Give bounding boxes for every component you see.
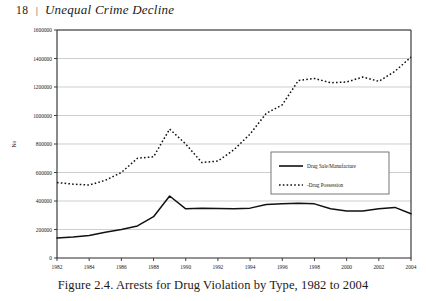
y-tick-label: 600000 <box>36 170 52 176</box>
x-tick-label: 1986 <box>116 264 127 270</box>
x-tick-label: 2004 <box>406 264 417 270</box>
y-axis-ticks: 0200000400000600000800000100000012000001… <box>33 27 57 261</box>
x-tick-label: 1998 <box>309 264 320 270</box>
x-tick-label: 1992 <box>213 264 224 270</box>
y-tick-label: 0 <box>49 255 52 261</box>
y-tick-label: 1400000 <box>33 56 52 62</box>
x-tick-label: 2000 <box>341 264 352 270</box>
x-axis-ticks: 1982198419861988199019921994199619982000… <box>52 258 417 270</box>
x-tick-label: 1984 <box>84 264 95 270</box>
book-page: 18 | Unequal Crime Decline 0200000400000… <box>0 0 426 301</box>
data-series-group <box>57 57 411 238</box>
x-tick-label: 1990 <box>180 264 191 270</box>
figure-caption: Figure 2.4. Arrests for Drug Violation b… <box>0 278 426 293</box>
x-tick-label: 1996 <box>277 264 288 270</box>
gridlines <box>57 30 411 230</box>
figure-2-4: 0200000400000600000800000100000012000001… <box>0 22 426 280</box>
x-tick-label: 1994 <box>245 264 256 270</box>
y-tick-label: 1200000 <box>33 84 52 90</box>
book-title: Unequal Crime Decline <box>45 2 174 18</box>
chart-legend[interactable]: Drug Sale/Manufacture-Drug Possession <box>271 152 389 194</box>
x-tick-label: 1988 <box>148 264 159 270</box>
line-chart: 0200000400000600000800000100000012000001… <box>0 22 426 280</box>
series-line-solid <box>57 196 411 238</box>
y-tick-label: 400000 <box>36 198 52 204</box>
running-head: 18 | Unequal Crime Decline <box>16 2 174 18</box>
page-folio: 18 <box>16 4 29 16</box>
legend-label: -Drug Possession <box>307 182 344 188</box>
y-axis-label: No <box>11 140 17 147</box>
y-tick-label: 1600000 <box>33 27 52 33</box>
folio-separator: | <box>36 4 38 16</box>
y-tick-label: 1000000 <box>33 113 52 119</box>
x-tick-label: 2002 <box>373 264 384 270</box>
x-tick-label: 1982 <box>52 264 63 270</box>
y-tick-label: 200000 <box>36 227 52 233</box>
y-tick-label: 800000 <box>36 141 52 147</box>
legend-label: Drug Sale/Manufacture <box>307 163 357 169</box>
